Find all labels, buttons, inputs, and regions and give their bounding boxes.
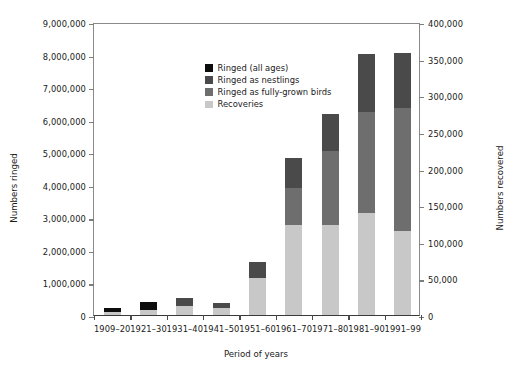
y-axis-right-tick-label: 400,000 [428,19,463,29]
y-axis-right-title: Numbers recovered [495,146,505,231]
bar-segment-recoveries [394,231,411,315]
y-axis-left-title: Numbers ringed [9,153,19,222]
bar-1951–60 [249,22,266,315]
y-axis-right-tick-label: 200,000 [428,166,463,176]
x-axis-tick [167,315,168,320]
y-axis-left-tick [89,89,94,90]
y-axis-left-tick [89,187,94,188]
y-axis-right-tick-label: 150,000 [428,202,463,212]
x-axis-tick-label: 1951–60 [239,324,276,334]
legend-swatch-icon [205,64,213,72]
bar-segment-nestlings [322,114,339,150]
y-axis-left-tick [89,284,94,285]
x-axis-tick [203,315,204,320]
x-axis-title: Period of years [224,349,288,359]
bar-segment-recoveries [249,278,266,315]
y-axis-right-tick-label: 300,000 [428,92,463,102]
bar-segment-recoveries [285,225,302,316]
bar-segment-fully-grown [322,151,339,225]
y-axis-right-tick [419,171,424,172]
bar-1961–70 [285,22,302,315]
bird-ringing-stacked-bar-chart: Numbers ringed Numbers recovered Period … [0,0,514,376]
y-axis-left-tick [89,154,94,155]
y-axis-left-tick-label: 6,000,000 [43,117,86,127]
y-axis-left-tick-label: 8,000,000 [43,52,86,62]
bar-segment-nestlings [213,303,230,308]
x-axis-tick-label: 1921–30 [130,324,167,334]
y-axis-right-tick-label: 250,000 [428,129,463,139]
x-axis-tick-label: 1991–99 [385,324,422,334]
bar-segment-fully-grown [285,188,302,225]
bar-segment-recoveries [104,312,121,315]
bar-segment-nestlings [249,262,266,278]
y-axis-left-tick [89,252,94,253]
y-axis-right-tick [419,97,424,98]
x-axis-tick-label: 1961–70 [276,324,313,334]
bar-segment-recoveries [140,310,157,315]
x-axis-tick [276,315,277,320]
bar-segment-fully-grown [394,108,411,231]
legend-swatch-icon [205,101,213,109]
bar-segment-nestlings [358,54,375,112]
x-axis-tick-label: 1909–20 [94,324,131,334]
x-axis-tick [239,315,240,320]
y-axis-right-tick-label: 350,000 [428,56,463,66]
y-axis-left-tick-label: 5,000,000 [43,149,86,159]
x-axis-tick-label: 1981–90 [348,324,385,334]
y-axis-left-tick-label: 9,000,000 [43,19,86,29]
y-axis-right-tick-label: 50,000 [428,275,458,285]
y-axis-left-tick [89,57,94,58]
y-axis-right-tick [419,280,424,281]
y-axis-left-tick-label: 1,000,000 [43,279,86,289]
bar-1941–50 [213,22,230,315]
bar-1981–90 [358,22,375,315]
legend-swatch-icon [205,88,213,96]
x-axis-tick [312,315,313,320]
bar-segment-recoveries [322,225,339,316]
y-axis-left-tick-label: 3,000,000 [43,214,86,224]
y-axis-left-tick-label: 7,000,000 [43,84,86,94]
bar-segment-all-ages [140,302,157,310]
x-axis-tick [421,315,422,320]
bar-1931–40 [176,22,193,315]
x-axis-tick-label: 1971–80 [312,324,349,334]
bar-segment-nestlings [285,158,302,188]
legend-swatch-icon [205,76,213,84]
bar-segment-nestlings [176,298,193,305]
x-axis-tick [348,315,349,320]
y-axis-right-tick-label: 100,000 [428,239,463,249]
bar-segment-recoveries [176,306,193,315]
y-axis-right-tick [419,61,424,62]
bar-segment-recoveries [213,308,230,315]
x-axis-tick-label: 1931–40 [167,324,204,334]
y-axis-left-tick-label: 4,000,000 [43,182,86,192]
x-axis-tick [385,315,386,320]
x-axis-tick [94,315,95,320]
bar-1991–99 [394,22,411,315]
plot-area: Ringed (all ages)Ringed as nestlingsRing… [93,23,420,316]
y-axis-right-tick [419,134,424,135]
y-axis-right-tick [419,24,424,25]
bar-segment-recoveries [358,213,375,315]
y-axis-left-tick [89,24,94,25]
bar-segment-all-ages [104,308,121,312]
x-axis-tick [130,315,131,320]
y-axis-left-tick-label: 0 [81,312,86,322]
y-axis-left-tick [89,219,94,220]
y-axis-left-tick [89,122,94,123]
y-axis-right-tick [419,244,424,245]
bar-segment-fully-grown [358,112,375,214]
bar-segment-nestlings [394,53,411,108]
y-axis-right-tick-label: 0 [428,312,433,322]
x-axis-tick-label: 1941–50 [203,324,240,334]
legend-item-label: Ringed as fully-grown birds [218,86,332,98]
y-axis-left-tick-label: 2,000,000 [43,247,86,257]
bar-1921–30 [140,22,157,315]
bar-1909–20 [104,22,121,315]
bar-1971–80 [322,22,339,315]
y-axis-right-tick [419,207,424,208]
